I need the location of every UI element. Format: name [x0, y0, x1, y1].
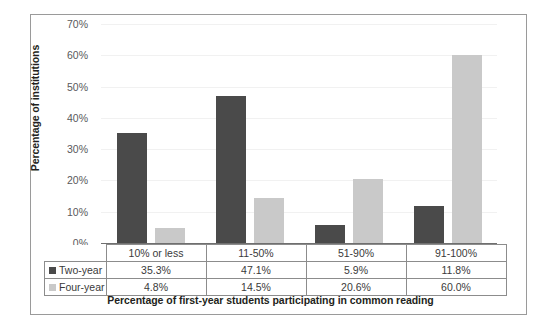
bar-four-year-3: [452, 55, 482, 243]
table-corner-cell: [45, 245, 107, 262]
bar-two-year-1: [216, 96, 246, 243]
y-tick-label: 20%: [44, 175, 88, 185]
x-axis-title: Percentage of first-year students partic…: [44, 294, 497, 306]
table-data-cell: 47.1%: [206, 262, 306, 279]
table-data-cell: 35.3%: [106, 262, 206, 279]
bar-two-year-2: [315, 225, 345, 243]
legend-swatch-icon: [49, 267, 56, 274]
y-tick-label: 60%: [44, 50, 88, 60]
table-header-cell: 91-100%: [406, 245, 506, 262]
legend-swatch-icon: [49, 284, 56, 291]
table-row: Two-year35.3%47.1%5.9%11.8%: [45, 262, 507, 279]
table-data-cell: 20.6%: [306, 279, 406, 296]
data-table: 10% or less11-50%51-90%91-100%Two-year35…: [44, 244, 507, 296]
y-tick-label: 10%: [44, 207, 88, 217]
gridline: [101, 55, 497, 56]
gridline: [101, 180, 497, 181]
y-axis-title: Percentage of institutions: [27, 13, 43, 203]
y-tick-label: 40%: [44, 113, 88, 123]
gridline: [101, 87, 497, 88]
table-data-cell: 4.8%: [106, 279, 206, 296]
bar-four-year-2: [353, 179, 383, 243]
y-tick-label: 30%: [44, 144, 88, 154]
gridline: [101, 24, 497, 25]
gridline: [101, 118, 497, 119]
bar-chart-figure: Percentage of institutions 70%60%50%40%3…: [0, 0, 556, 335]
bar-four-year-0: [155, 228, 185, 243]
bar-two-year-3: [414, 206, 444, 243]
table-data-cell: 11.8%: [406, 262, 506, 279]
table-row: Four-year4.8%14.5%20.6%60.0%: [45, 279, 507, 296]
legend-label: Two-year: [59, 264, 102, 276]
legend-label: Four-year: [59, 281, 105, 293]
table-header-cell: 10% or less: [106, 245, 206, 262]
table-header-row: 10% or less11-50%51-90%91-100%: [45, 245, 507, 262]
plot-area: [101, 24, 497, 244]
table-header-cell: 11-50%: [206, 245, 306, 262]
y-tick-label: 70%: [44, 19, 88, 29]
bar-two-year-0: [117, 133, 147, 243]
table-header-cell: 51-90%: [306, 245, 406, 262]
y-tick-label: 50%: [44, 82, 88, 92]
legend-item-four-year[interactable]: Four-year: [45, 279, 107, 296]
table-data-cell: 14.5%: [206, 279, 306, 296]
gridline: [101, 149, 497, 150]
table-data-cell: 5.9%: [306, 262, 406, 279]
table-data-cell: 60.0%: [406, 279, 506, 296]
bar-four-year-1: [254, 198, 284, 243]
legend-item-two-year[interactable]: Two-year: [45, 262, 107, 279]
